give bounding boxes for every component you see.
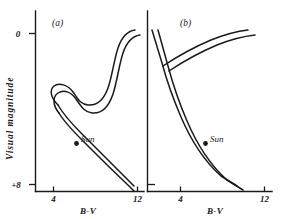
panel-a-sun-marker-group: [74, 141, 79, 146]
panel-a-axes: [29, 11, 144, 192]
panel-b-sun-marker-group: [203, 141, 208, 146]
panel-a-main-sequence-upper-edge: [58, 105, 134, 186]
figure-canvas: Visual magnitude 0 +8 (a) Sun 4 12 B-V (…: [0, 0, 281, 219]
panel-a-sun-label: Sun: [81, 134, 95, 144]
panel-b-curves: [152, 30, 255, 190]
panel-a-x-tick-label-4: 4: [50, 194, 56, 204]
panel-a-sun-dot: [74, 141, 79, 146]
panel-a-band-upper-edge: [51, 30, 135, 105]
panel-a-main-sequence-lower-edge: [59, 113, 134, 191]
panel-b-giant-branch-upper-edge: [163, 30, 248, 66]
panel-a-label: (a): [52, 18, 63, 29]
panel-b-x-axis-label: B-V: [206, 206, 224, 216]
panel-b-axes: [148, 185, 273, 192]
panel-a-curves: [51, 30, 140, 191]
panel-b-main-sequence-lower-edge: [158, 30, 243, 190]
panel-b-x-tick-label-4: 4: [177, 194, 183, 204]
y-axis-label: Visual magnitude: [5, 77, 15, 160]
y-tick-label-0: 0: [16, 29, 21, 39]
color-magnitude-diagram-figure: Visual magnitude 0 +8 (a) Sun 4 12 B-V (…: [0, 0, 281, 219]
y-axis-label-group: Visual magnitude: [5, 77, 15, 160]
panel-b-sun-label: Sun: [210, 134, 224, 144]
panel-b-sun-dot: [203, 141, 208, 146]
panel-a-band-lower-edge: [54, 35, 140, 113]
panel-a-x-axis-label: B-V: [79, 206, 97, 216]
panel-b-label: (b): [180, 18, 191, 29]
panel-a-x-tick-label-12: 12: [133, 194, 143, 204]
y-tick-label-8: +8: [11, 180, 21, 190]
panel-b-x-tick-label-12: 12: [260, 194, 270, 204]
